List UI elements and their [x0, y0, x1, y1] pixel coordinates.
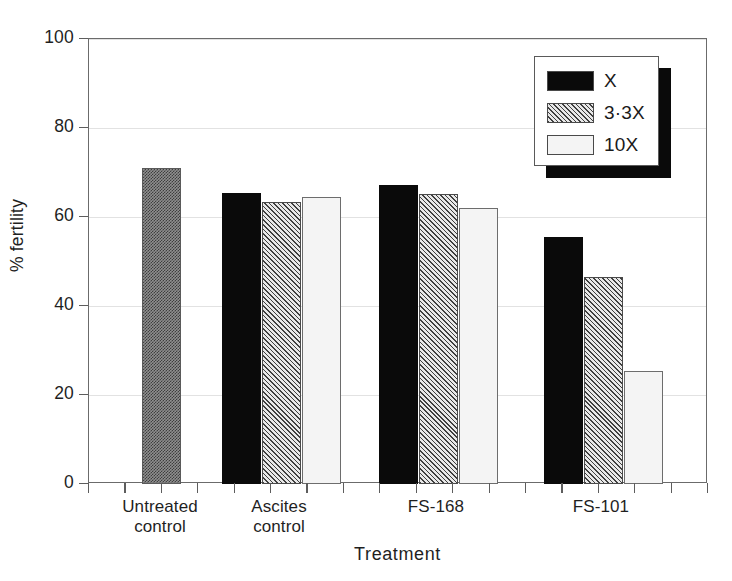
x-tick-mark	[561, 483, 562, 493]
bar-fs-101-10X	[624, 371, 663, 484]
x-tick-mark	[525, 483, 526, 493]
x-tick-mark	[161, 483, 162, 493]
y-tick-mark	[79, 38, 88, 39]
x-group-label: FS-101	[531, 497, 671, 517]
y-tick-label: 40	[30, 296, 74, 314]
x-tick-mark	[489, 483, 490, 493]
x-tick-mark	[234, 483, 235, 493]
y-tick-label: 100	[30, 29, 74, 47]
x-group-label: Ascites control	[209, 497, 349, 537]
x-tick-mark	[197, 483, 198, 493]
bar-untreated-control	[142, 168, 181, 484]
x-tick-mark	[707, 483, 708, 493]
x-tick-mark	[379, 483, 380, 493]
y-tick-label: 20	[30, 385, 74, 403]
x-tick-mark	[124, 483, 125, 493]
y-tick-label: 80	[30, 118, 74, 136]
x-axis-title: Treatment	[88, 544, 707, 565]
x-group-label: FS-168	[366, 497, 506, 517]
y-tick-mark	[79, 127, 88, 128]
legend-label: X	[604, 68, 617, 94]
chart-figure: 020406080100 % fertility Untreated contr…	[0, 0, 732, 581]
bar-ascites-control-33X	[262, 202, 301, 484]
x-axis: Untreated controlAscites controlFS-168FS…	[88, 483, 707, 581]
y-axis-title: % fertility	[7, 121, 28, 351]
x-tick-mark	[416, 483, 417, 493]
bar-fs-168-33X	[419, 194, 458, 484]
bar-ascites-control-X	[222, 193, 261, 484]
y-tick-mark	[79, 483, 88, 484]
bar-fs-101-33X	[584, 277, 623, 484]
y-tick-mark	[79, 394, 88, 395]
legend-label: 10X	[604, 132, 638, 158]
bar-fs-168-X	[379, 185, 418, 484]
gridline	[89, 39, 706, 40]
x-tick-mark	[270, 483, 271, 493]
bar-fs-101-X	[544, 237, 583, 484]
legend-swatch	[547, 71, 594, 91]
y-tick-label: 60	[30, 207, 74, 225]
bar-fs-168-10X	[459, 208, 498, 484]
y-tick-mark	[79, 305, 88, 306]
x-tick-mark	[306, 483, 307, 493]
y-tick-mark	[79, 216, 88, 217]
x-tick-mark	[88, 483, 89, 493]
x-tick-mark	[452, 483, 453, 493]
x-tick-mark	[671, 483, 672, 493]
x-tick-mark	[598, 483, 599, 493]
legend-swatch	[547, 135, 594, 155]
x-tick-mark	[634, 483, 635, 493]
bar-ascites-control-10X	[302, 197, 341, 484]
y-tick-label: 0	[30, 474, 74, 492]
legend-label: 3·3X	[604, 100, 645, 126]
legend-swatch	[547, 103, 594, 123]
x-tick-mark	[343, 483, 344, 493]
legend: X3·3X10X	[534, 56, 659, 166]
